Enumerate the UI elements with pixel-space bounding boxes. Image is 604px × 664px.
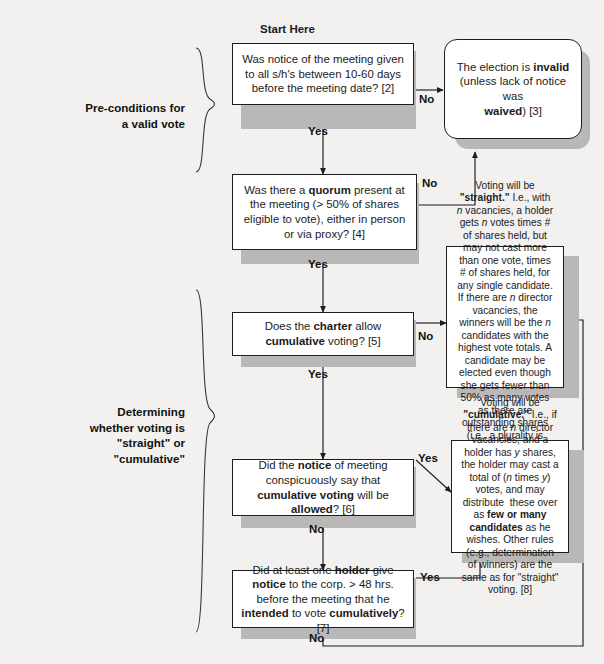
cumulative-voting-text: Voting will be "cumulative." I.e., if th… (461, 397, 559, 597)
election-invalid-result[interactable]: The election is invalid(unless lack of n… (444, 39, 582, 139)
election-invalid-text: The election is invalid(unless lack of n… (452, 60, 574, 118)
quorum-question-text: Was there a quorum present at the meetin… (240, 183, 409, 241)
cumulative-voting-result[interactable]: Voting will be "cumulative." I.e., if th… (451, 440, 569, 553)
quorum-question[interactable]: Was there a quorum present at the meetin… (232, 174, 417, 250)
group-label-preconditions-line1: Pre-conditions for (20, 100, 185, 116)
edge-label-charter-yes: Yes (308, 368, 328, 380)
edge-label-quorum-no: No (422, 177, 437, 189)
edge-label-noticesays-no: No (309, 523, 324, 535)
notice-says-text: Did the notice of meeting conspicuously … (240, 458, 406, 516)
edge-label-holder-no: No (309, 632, 324, 644)
charter-cumulative-question[interactable]: Does the charter allow cumulative voting… (232, 312, 414, 356)
group-label-preconditions: Pre-conditions for a valid vote (20, 100, 185, 131)
flowchart-canvas: Pre-conditions for a valid vote Determin… (0, 0, 604, 664)
brace-determining (196, 290, 215, 632)
edge-label-charter-no: No (418, 330, 433, 342)
holder-gave-notice-question[interactable]: Did at least one holder give notice to t… (232, 570, 414, 628)
edge-label-quorum-yes: Yes (308, 258, 328, 270)
group-label-determining-line4: "cumulative" (20, 451, 185, 467)
group-label-determining: Determining whether voting is "straight"… (20, 404, 185, 466)
brace-preconditions (196, 48, 215, 172)
edge-label-notice-no: No (419, 93, 434, 105)
notice-says-cumulative-question[interactable]: Did the notice of meeting conspicuously … (232, 459, 414, 516)
edge-label-noticesays-yes: Yes (418, 452, 438, 464)
charter-question-text: Does the charter allow cumulative voting… (240, 319, 406, 348)
group-label-determining-line2: whether voting is (20, 420, 185, 436)
holder-notice-text: Did at least one holder give notice to t… (240, 563, 406, 636)
notice-of-meeting-question[interactable]: Was notice of the meeting given to all s… (232, 43, 414, 105)
start-here-label: Start Here (260, 23, 315, 35)
group-label-determining-line1: Determining (20, 404, 185, 420)
group-label-preconditions-line2: a valid vote (20, 116, 185, 132)
notice-question-text: Was notice of the meeting given to all s… (240, 52, 406, 96)
straight-voting-result[interactable]: Voting will be "straight." I.e., with n … (446, 246, 564, 388)
group-label-determining-line3: "straight" or (20, 435, 185, 451)
edge-label-notice-yes: Yes (308, 125, 328, 137)
edge-label-holder-yes: Yes (420, 571, 440, 583)
